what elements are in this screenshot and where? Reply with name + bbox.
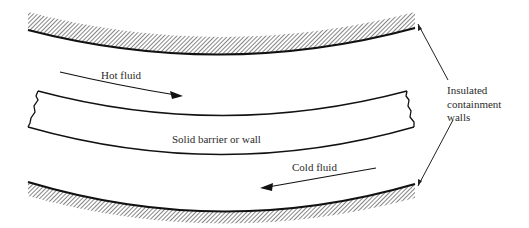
top-containment-wall [28, 12, 415, 55]
heat-exchanger-diagram: Hot fluid Solid barrier or wall Cold flu… [0, 0, 529, 228]
walls-label-line1: Insulated [447, 84, 488, 96]
leader-line-bottom [418, 120, 453, 186]
barrier-label: Solid barrier or wall [172, 133, 261, 145]
walls-label-line3: walls [447, 111, 470, 123]
barrier-right-break [406, 91, 414, 127]
bottom-containment-wall [28, 182, 415, 224]
hot-fluid-label: Hot fluid [101, 69, 142, 81]
cold-fluid-label: Cold fluid [292, 161, 337, 173]
walls-label-line2: containment [447, 98, 501, 110]
leader-line-top [418, 24, 448, 80]
barrier-left-break [28, 91, 38, 127]
